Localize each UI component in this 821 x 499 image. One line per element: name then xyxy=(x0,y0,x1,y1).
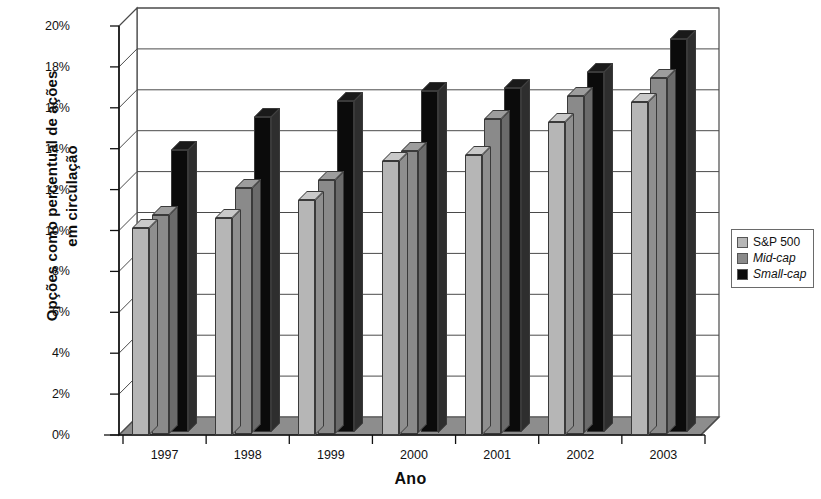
legend-swatch-icon xyxy=(737,269,748,280)
bar-s-p-500-2000 xyxy=(382,161,399,435)
bar-front-face xyxy=(382,161,399,435)
bar-side-face xyxy=(418,142,427,433)
bar-side-face xyxy=(149,219,158,435)
bar-side-face xyxy=(232,209,241,435)
bar-side-face xyxy=(315,191,324,435)
x-axis-tick-label: 2003 xyxy=(633,448,693,462)
bar-side-face xyxy=(169,206,178,434)
bar-front-face xyxy=(215,218,232,435)
legend-item: Mid-cap xyxy=(737,250,806,266)
bar-side-face xyxy=(501,110,510,434)
bar-front-face xyxy=(548,122,565,435)
bar-side-face xyxy=(482,146,491,435)
bar-side-face xyxy=(667,69,676,434)
bar-s-p-500-1997 xyxy=(132,228,149,435)
bar-s-p-500-2002 xyxy=(548,122,565,435)
legend-item: S&P 500 xyxy=(737,234,806,250)
x-axis-tick-label: 2000 xyxy=(384,448,444,462)
bar-s-p-500-2001 xyxy=(465,155,482,435)
bar-side-face xyxy=(565,113,574,435)
bar-side-face xyxy=(648,93,657,435)
x-axis-tick-label: 1997 xyxy=(135,448,195,462)
x-axis-tick-label: 1999 xyxy=(301,448,361,462)
bar-side-face xyxy=(354,92,363,432)
bar-side-face xyxy=(584,87,593,433)
bar-s-p-500-1999 xyxy=(298,200,315,435)
legend-label: S&P 500 xyxy=(753,235,800,249)
bar-side-face xyxy=(521,79,530,432)
legend-swatch-icon xyxy=(737,253,748,264)
bar-front-face xyxy=(465,155,482,435)
bar-side-face xyxy=(399,152,408,435)
bar-front-face xyxy=(631,102,648,435)
bar-side-face xyxy=(188,141,197,432)
x-axis-tick-label: 2001 xyxy=(467,448,527,462)
bar-front-face xyxy=(298,200,315,435)
bar-side-face xyxy=(252,179,261,433)
legend-label: Small-cap xyxy=(753,267,806,281)
bar-side-face xyxy=(335,171,344,434)
x-axis-title: Ano xyxy=(0,470,821,488)
legend-swatch-icon xyxy=(737,237,748,248)
legend-item: Small-cap xyxy=(737,266,806,282)
legend-label: Mid-cap xyxy=(753,251,796,265)
x-axis-tick-label: 1998 xyxy=(218,448,278,462)
bar-side-face xyxy=(687,30,696,432)
chart-legend: S&P 500Mid-capSmall-cap xyxy=(731,229,814,288)
bar-s-p-500-1998 xyxy=(215,218,232,435)
bar-chart: Opções como percentual de ações em circu… xyxy=(0,0,821,499)
bar-side-face xyxy=(438,82,447,433)
bar-s-p-500-2003 xyxy=(631,102,648,435)
bar-side-face xyxy=(271,108,280,432)
x-axis-tick-label: 2002 xyxy=(550,448,610,462)
bar-side-face xyxy=(604,63,613,432)
bar-front-face xyxy=(132,228,149,435)
